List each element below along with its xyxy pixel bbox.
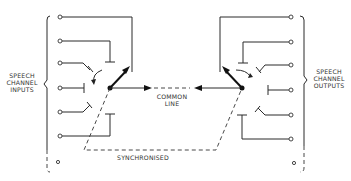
synchronised-label: SYNCHRONISED xyxy=(117,154,169,161)
right-rotation-arrow xyxy=(236,70,250,76)
left-rotor-arm xyxy=(110,70,127,88)
output-channel-5 xyxy=(255,106,293,117)
output-channel-6 xyxy=(237,115,293,141)
output-channel-4 xyxy=(268,85,293,95)
input-channel-2 xyxy=(58,39,115,62)
outputs-label-line3: OUTPUTS xyxy=(314,82,345,89)
output-channel-2 xyxy=(238,40,293,63)
inputs-label-line3: INPUTS xyxy=(10,86,34,93)
tdm-switch-diagram: SPEECH CHANNEL INPUTS SPEECH CHANNEL OUT… xyxy=(0,0,351,181)
right-rotor-arm xyxy=(225,70,242,88)
input-channel-6 xyxy=(58,114,115,138)
inputs-brace xyxy=(44,16,50,150)
output-channel-3 xyxy=(256,63,293,73)
input-channel-4 xyxy=(58,83,84,93)
common-line-label-1: COMMON xyxy=(157,93,188,100)
outputs-label-line2: CHANNEL xyxy=(313,75,345,82)
outputs-brace-dashed xyxy=(300,146,304,172)
input-channel-5 xyxy=(58,102,92,114)
common-line-label-2: LINE xyxy=(165,100,180,107)
outputs-brace xyxy=(300,16,307,146)
input-channel-7-terminal xyxy=(56,160,59,163)
outputs-label-line1: SPEECH xyxy=(316,68,342,75)
common-line-right-arrow xyxy=(194,85,202,91)
inputs-label-line2: CHANNEL xyxy=(6,79,38,86)
output-channel-7-terminal xyxy=(292,161,295,164)
inputs-brace-dashed xyxy=(47,150,50,172)
common-line-left-arrow xyxy=(144,85,152,91)
inputs-label-line1: SPEECH xyxy=(9,72,35,79)
output-channel-1 xyxy=(220,15,293,72)
input-channel-3 xyxy=(58,61,93,72)
